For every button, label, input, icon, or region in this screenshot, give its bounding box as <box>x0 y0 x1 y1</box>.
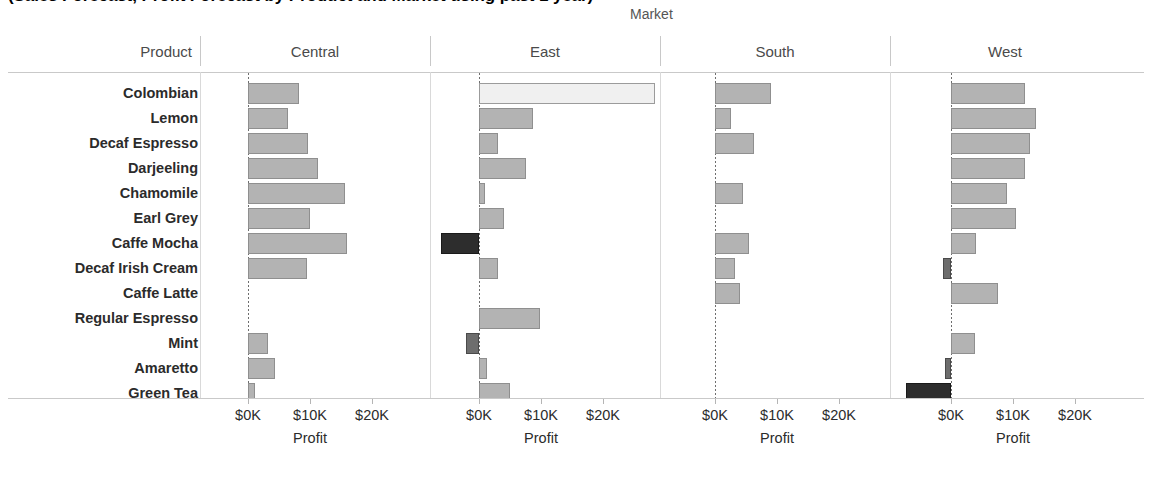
pane-header-east[interactable]: East <box>430 34 660 68</box>
bar-west-mint[interactable] <box>951 333 975 354</box>
bar-east-caffe-mocha[interactable] <box>441 233 479 254</box>
axis-tick <box>951 399 952 404</box>
axis-tick <box>541 399 542 404</box>
row-label-amaretto[interactable]: Amaretto <box>134 356 198 380</box>
bar-west-caffe-mocha[interactable] <box>951 233 976 254</box>
row-label-green-tea[interactable]: Green Tea <box>128 381 198 405</box>
bar-east-darjeeling[interactable] <box>479 158 526 179</box>
pane-header-band: Product CentralEastSouthWest <box>0 34 1152 68</box>
bar-central-amaretto[interactable] <box>248 358 275 379</box>
axis-title-profit[interactable]: Profit <box>293 430 327 446</box>
axis-tick <box>479 399 480 404</box>
bar-south-chamomile[interactable] <box>715 183 743 204</box>
bar-south-caffe-latte[interactable] <box>715 283 740 304</box>
axis-tick-label-0k: $0K <box>702 407 728 423</box>
viz-root: (Sales Forecast, Profit Forecast by Prod… <box>0 0 1152 481</box>
pane-west <box>890 73 1120 398</box>
row-label-colombian[interactable]: Colombian <box>123 81 198 105</box>
header-divider <box>430 36 431 66</box>
axis-tick-label-10k: $10K <box>996 407 1030 423</box>
bar-west-caffe-latte[interactable] <box>951 283 998 304</box>
bar-central-decaf-espresso[interactable] <box>248 133 308 154</box>
bar-south-caffe-mocha[interactable] <box>715 233 749 254</box>
row-label-lemon[interactable]: Lemon <box>150 106 198 130</box>
bar-central-mint[interactable] <box>248 333 268 354</box>
bar-west-chamomile[interactable] <box>951 183 1007 204</box>
bar-central-caffe-mocha[interactable] <box>248 233 347 254</box>
bar-east-regular-espresso[interactable] <box>479 308 540 329</box>
axis-tick <box>777 399 778 404</box>
bar-east-decaf-espresso[interactable] <box>479 133 498 154</box>
row-label-chamomile[interactable]: Chamomile <box>120 181 198 205</box>
pane-divider-central <box>200 72 201 398</box>
bar-east-mint[interactable] <box>466 333 479 354</box>
axis-west: $0K$10K$20KProfit <box>890 398 1120 458</box>
axis-central: $0K$10K$20KProfit <box>200 398 430 458</box>
axis-line <box>430 398 660 399</box>
bar-central-darjeeling[interactable] <box>248 158 318 179</box>
pane-header-central[interactable]: Central <box>200 34 430 68</box>
bar-west-decaf-espresso[interactable] <box>951 133 1030 154</box>
row-label-decaf-irish-cream[interactable]: Decaf Irish Cream <box>75 256 198 280</box>
axis-line <box>200 398 430 399</box>
bar-south-lemon[interactable] <box>715 108 731 129</box>
axis-title-profit[interactable]: Profit <box>996 430 1030 446</box>
axis-tick-label-20k: $20K <box>1058 407 1092 423</box>
bar-west-green-tea[interactable] <box>906 383 951 398</box>
bar-west-amaretto[interactable] <box>945 358 951 379</box>
bar-central-colombian[interactable] <box>248 83 299 104</box>
bar-central-earl-grey[interactable] <box>248 208 310 229</box>
pane-header-west[interactable]: West <box>890 34 1120 68</box>
axis-tick <box>372 399 373 404</box>
axis-title-profit[interactable]: Profit <box>524 430 558 446</box>
bar-east-decaf-irish-cream[interactable] <box>479 258 498 279</box>
axis-tick <box>839 399 840 404</box>
bar-south-decaf-irish-cream[interactable] <box>715 258 735 279</box>
row-label-darjeeling[interactable]: Darjeeling <box>128 156 198 180</box>
row-label-earl-grey[interactable]: Earl Grey <box>134 206 199 230</box>
axis-tick-label-0k: $0K <box>466 407 492 423</box>
axis-tick <box>248 399 249 404</box>
bar-east-amaretto[interactable] <box>479 358 487 379</box>
axis-tick <box>1013 399 1014 404</box>
header-divider <box>200 36 201 66</box>
bar-west-darjeeling[interactable] <box>951 158 1025 179</box>
bar-east-colombian[interactable] <box>479 83 655 104</box>
bar-east-chamomile[interactable] <box>479 183 485 204</box>
bar-east-lemon[interactable] <box>479 108 533 129</box>
pane-header-south[interactable]: South <box>660 34 890 68</box>
bar-south-colombian[interactable] <box>715 83 771 104</box>
bar-west-decaf-irish-cream[interactable] <box>943 258 951 279</box>
axis-title-profit[interactable]: Profit <box>760 430 794 446</box>
bar-central-decaf-irish-cream[interactable] <box>248 258 307 279</box>
bar-central-chamomile[interactable] <box>248 183 345 204</box>
pane-south <box>660 73 890 398</box>
bar-west-lemon[interactable] <box>951 108 1036 129</box>
axis-tick <box>715 399 716 404</box>
pane-central <box>200 73 430 398</box>
bar-south-decaf-espresso[interactable] <box>715 133 754 154</box>
axis-south: $0K$10K$20KProfit <box>660 398 890 458</box>
axis-tick-label-0k: $0K <box>235 407 261 423</box>
bar-east-green-tea[interactable] <box>479 383 510 398</box>
row-label-decaf-espresso[interactable]: Decaf Espresso <box>89 131 198 155</box>
bar-central-green-tea[interactable] <box>248 383 255 398</box>
market-field-label: Market <box>630 6 673 22</box>
row-label-regular-espresso[interactable]: Regular Espresso <box>75 306 198 330</box>
row-label-caffe-mocha[interactable]: Caffe Mocha <box>112 231 198 255</box>
bar-west-earl-grey[interactable] <box>951 208 1016 229</box>
bar-east-earl-grey[interactable] <box>479 208 504 229</box>
axis-tick-label-10k: $10K <box>524 407 558 423</box>
axis-line <box>660 398 890 399</box>
bar-central-lemon[interactable] <box>248 108 288 129</box>
axis-tick-label-10k: $10K <box>293 407 327 423</box>
axis-tick <box>310 399 311 404</box>
row-label-mint[interactable]: Mint <box>168 331 198 355</box>
pane-divider-west <box>890 72 891 398</box>
bar-west-colombian[interactable] <box>951 83 1025 104</box>
header-divider <box>660 36 661 66</box>
row-label-caffe-latte[interactable]: Caffe Latte <box>123 281 198 305</box>
axis-tick-label-20k: $20K <box>586 407 620 423</box>
axis-tick-label-10k: $10K <box>760 407 794 423</box>
axis-line <box>890 398 1120 399</box>
